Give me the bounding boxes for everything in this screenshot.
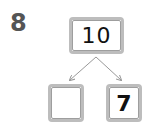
part-box-empty[interactable] [48, 84, 84, 122]
whole-value: 10 [82, 23, 112, 48]
part-value-2: 7 [116, 91, 131, 116]
arrow-left [70, 57, 96, 80]
part-box-known: 7 [106, 84, 142, 122]
whole-box: 10 [69, 17, 124, 54]
arrow-right [96, 57, 121, 80]
